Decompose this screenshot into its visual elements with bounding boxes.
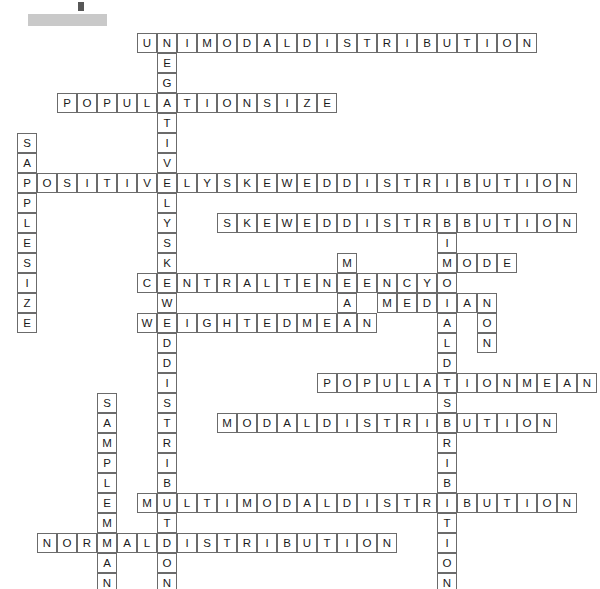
crossword-cell[interactable]: T — [497, 493, 517, 513]
crossword-cell[interactable]: T — [97, 173, 117, 193]
crossword-cell[interactable]: S — [257, 93, 277, 113]
crossword-cell[interactable]: P — [17, 173, 37, 193]
crossword-cell[interactable]: L — [437, 333, 457, 353]
crossword-cell[interactable]: D — [157, 533, 177, 553]
crossword-cell[interactable]: U — [457, 413, 477, 433]
crossword-cell[interactable]: O — [537, 213, 557, 233]
crossword-cell[interactable]: R — [397, 413, 417, 433]
crossword-cell[interactable]: I — [497, 413, 517, 433]
crossword-cell[interactable]: A — [97, 413, 117, 433]
crossword-cell[interactable]: O — [357, 533, 377, 553]
crossword-cell[interactable]: S — [377, 173, 397, 193]
crossword-cell[interactable]: N — [517, 33, 537, 53]
crossword-cell[interactable]: R — [417, 173, 437, 193]
crossword-cell[interactable]: P — [17, 193, 37, 213]
crossword-cell[interactable]: I — [437, 293, 457, 313]
crossword-cell[interactable]: I — [157, 133, 177, 153]
crossword-cell[interactable]: D — [337, 493, 357, 513]
crossword-cell[interactable]: N — [537, 413, 557, 433]
crossword-cell[interactable]: N — [177, 273, 197, 293]
crossword-cell[interactable]: I — [357, 173, 377, 193]
crossword-cell[interactable]: O — [57, 533, 77, 553]
crossword-cell[interactable]: E — [397, 293, 417, 313]
crossword-cell[interactable]: T — [377, 413, 397, 433]
crossword-cell[interactable]: T — [437, 373, 457, 393]
crossword-cell[interactable]: M — [97, 433, 117, 453]
crossword-cell[interactable]: E — [257, 313, 277, 333]
crossword-cell[interactable]: N — [237, 93, 257, 113]
crossword-cell[interactable]: Y — [197, 173, 217, 193]
crossword-cell[interactable]: C — [137, 273, 157, 293]
crossword-cell[interactable]: A — [297, 493, 317, 513]
crossword-cell[interactable]: T — [177, 93, 197, 113]
crossword-cell[interactable]: I — [177, 33, 197, 53]
crossword-cell[interactable]: N — [437, 573, 457, 589]
crossword-cell[interactable]: I — [317, 33, 337, 53]
crossword-cell[interactable]: O — [237, 413, 257, 433]
crossword-cell[interactable]: N — [557, 493, 577, 513]
crossword-cell[interactable]: I — [517, 173, 537, 193]
crossword-cell[interactable]: P — [317, 373, 337, 393]
crossword-cell[interactable]: L — [137, 93, 157, 113]
crossword-cell[interactable]: R — [377, 33, 397, 53]
crossword-cell[interactable]: D — [337, 213, 357, 233]
crossword-cell[interactable]: I — [357, 213, 377, 233]
crossword-cell[interactable]: U — [297, 533, 317, 553]
crossword-cell[interactable]: U — [157, 493, 177, 513]
crossword-cell[interactable]: L — [177, 493, 197, 513]
crossword-cell[interactable]: D — [157, 353, 177, 373]
crossword-cell[interactable]: I — [177, 533, 197, 553]
crossword-cell[interactable]: L — [177, 173, 197, 193]
crossword-cell[interactable]: B — [277, 533, 297, 553]
crossword-cell[interactable]: T — [277, 273, 297, 293]
crossword-cell[interactable]: R — [77, 533, 97, 553]
crossword-cell[interactable]: U — [137, 33, 157, 53]
crossword-cell[interactable]: N — [557, 213, 577, 233]
crossword-cell[interactable]: I — [157, 373, 177, 393]
crossword-cell[interactable]: N — [557, 173, 577, 193]
crossword-cell[interactable]: N — [477, 333, 497, 353]
crossword-cell[interactable]: T — [397, 173, 417, 193]
crossword-cell[interactable]: U — [117, 93, 137, 113]
crossword-cell[interactable]: B — [457, 213, 477, 233]
crossword-cell[interactable]: B — [417, 33, 437, 53]
crossword-cell[interactable]: S — [157, 393, 177, 413]
crossword-cell[interactable]: D — [437, 353, 457, 373]
crossword-cell[interactable]: T — [457, 33, 477, 53]
crossword-cell[interactable]: N — [377, 533, 397, 553]
crossword-cell[interactable]: E — [157, 273, 177, 293]
crossword-cell[interactable]: I — [177, 313, 197, 333]
crossword-cell[interactable]: N — [37, 533, 57, 553]
crossword-cell[interactable]: P — [97, 453, 117, 473]
crossword-cell[interactable]: E — [337, 273, 357, 293]
crossword-cell[interactable]: A — [417, 373, 437, 393]
crossword-cell[interactable]: Y — [157, 213, 177, 233]
crossword-cell[interactable]: A — [157, 93, 177, 113]
crossword-cell[interactable]: I — [217, 493, 237, 513]
crossword-cell[interactable]: S — [357, 413, 377, 433]
crossword-cell[interactable]: I — [277, 93, 297, 113]
crossword-cell[interactable]: A — [557, 373, 577, 393]
crossword-cell[interactable]: M — [337, 253, 357, 273]
crossword-cell[interactable]: E — [297, 173, 317, 193]
crossword-cell[interactable]: A — [17, 153, 37, 173]
crossword-cell[interactable]: I — [417, 413, 437, 433]
crossword-cell[interactable]: H — [217, 313, 237, 333]
crossword-cell[interactable]: R — [217, 273, 237, 293]
crossword-cell[interactable]: D — [157, 333, 177, 353]
crossword-cell[interactable]: I — [77, 173, 97, 193]
crossword-cell[interactable]: G — [197, 313, 217, 333]
crossword-cell[interactable]: T — [497, 213, 517, 233]
crossword-cell[interactable]: I — [257, 533, 277, 553]
crossword-cell[interactable]: D — [477, 253, 497, 273]
crossword-cell[interactable]: V — [137, 173, 157, 193]
crossword-cell[interactable]: V — [157, 153, 177, 173]
crossword-cell[interactable]: D — [317, 413, 337, 433]
crossword-cell[interactable]: O — [537, 493, 557, 513]
crossword-cell[interactable]: O — [537, 173, 557, 193]
crossword-cell[interactable]: E — [157, 53, 177, 73]
crossword-cell[interactable]: M — [377, 293, 397, 313]
crossword-cell[interactable]: N — [377, 273, 397, 293]
crossword-cell[interactable]: S — [217, 173, 237, 193]
crossword-cell[interactable]: D — [297, 33, 317, 53]
